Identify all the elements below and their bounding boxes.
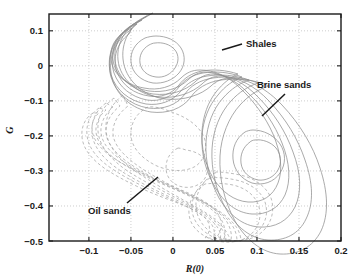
x-tick-label: 0.1 <box>250 245 264 256</box>
avo-crossplot-chart: Shales Brine sands Oil sands R(0) G −0.1… <box>0 0 354 279</box>
y-tick-label: −0.4 <box>24 200 43 211</box>
contour-path <box>87 108 225 239</box>
shales-label: Shales <box>246 38 277 49</box>
y-tick-label: −0.2 <box>24 130 43 141</box>
contour-path <box>82 113 221 238</box>
brine-sands-label: Brine sands <box>257 79 311 90</box>
contour-path <box>166 148 207 187</box>
contour-path <box>109 20 299 227</box>
contour-path <box>92 103 231 240</box>
y-tick-label: −0.5 <box>24 236 43 247</box>
x-axis-title: R(0) <box>185 263 204 275</box>
x-tick-label: −0.1 <box>80 245 99 256</box>
y-axis-title: G <box>4 126 15 134</box>
annotation-shales: Shales <box>222 38 277 50</box>
y-tick-labels: 0.10−0.1−0.2−0.3−0.4−0.5 <box>24 25 43 246</box>
y-tick-label: 0.1 <box>30 25 44 36</box>
oil-sands-leader-line <box>127 177 158 203</box>
contours-shales-brine-solid <box>109 13 326 254</box>
contour-path <box>111 13 327 254</box>
contour-path <box>131 107 206 171</box>
contour-path <box>140 43 178 77</box>
annotation-oil-sands: Oil sands <box>88 177 158 216</box>
y-tick-label: −0.1 <box>24 95 43 106</box>
x-tick-label: 0.05 <box>206 245 225 256</box>
y-tick-label: 0 <box>38 60 43 71</box>
x-tick-label: 0.2 <box>334 245 347 256</box>
x-tick-labels: −0.1−0.0500.050.10.150.2 <box>80 245 348 256</box>
y-tick-label: −0.3 <box>24 165 43 176</box>
contours-oil-sands-dashed <box>82 95 273 242</box>
contour-path <box>241 140 281 180</box>
crossplot-figure: Shales Brine sands Oil sands R(0) G −0.1… <box>0 0 354 279</box>
x-tick-label: 0 <box>170 245 175 256</box>
oil-sands-label: Oil sands <box>88 205 131 216</box>
x-tick-label: −0.05 <box>119 245 144 256</box>
x-tick-label: 0.15 <box>290 245 309 256</box>
shales-leader-line <box>222 44 242 50</box>
